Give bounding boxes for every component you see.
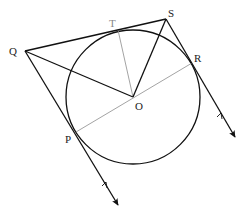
radius-OT	[118, 30, 133, 97]
label-T: T	[109, 17, 116, 29]
parallel-mark-icon	[102, 182, 107, 188]
label-O: O	[135, 100, 143, 112]
segment-QS	[25, 19, 166, 51]
label-R: R	[194, 52, 202, 64]
parallel-mark-icon	[217, 113, 222, 119]
diameter-PR	[76, 63, 192, 132]
tangent-ray-QP	[25, 51, 118, 205]
geometry-diagram: Q S T O R P	[0, 0, 247, 215]
label-S: S	[168, 7, 174, 19]
label-P: P	[65, 133, 71, 145]
label-Q: Q	[9, 45, 17, 57]
tangent-ray-SR	[166, 19, 235, 137]
